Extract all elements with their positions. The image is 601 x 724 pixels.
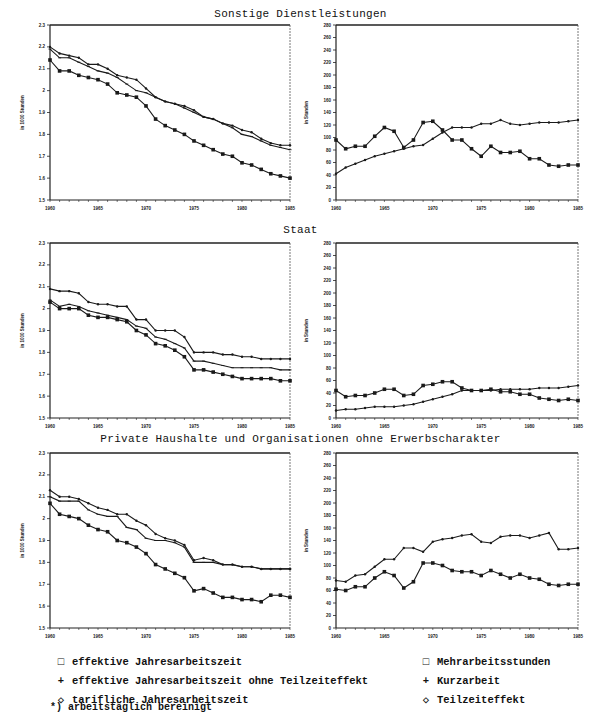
svg-text:200: 200 — [323, 501, 331, 506]
svg-text:140: 140 — [323, 110, 331, 115]
series-line — [336, 563, 578, 591]
svg-text:80: 80 — [326, 366, 332, 371]
svg-text:1965: 1965 — [379, 634, 390, 639]
svg-text:1.9: 1.9 — [39, 328, 46, 333]
svg-text:120: 120 — [323, 123, 331, 128]
svg-text:1970: 1970 — [141, 206, 152, 211]
series-line — [336, 382, 578, 401]
svg-text:in 1000 Stunden: in 1000 Stunden — [20, 313, 25, 348]
svg-text:240: 240 — [323, 48, 331, 53]
svg-text:1960: 1960 — [331, 634, 342, 639]
svg-text:1985: 1985 — [285, 634, 296, 639]
svg-text:1975: 1975 — [189, 634, 200, 639]
svg-text:1.7: 1.7 — [39, 372, 46, 377]
svg-text:1980: 1980 — [237, 206, 248, 211]
svg-text:2: 2 — [42, 306, 45, 311]
svg-text:220: 220 — [323, 488, 331, 493]
svg-text:200: 200 — [323, 291, 331, 296]
svg-text:160: 160 — [323, 526, 331, 531]
svg-text:280: 280 — [323, 241, 331, 246]
svg-text:1.6: 1.6 — [39, 394, 46, 399]
svg-text:1970: 1970 — [141, 634, 152, 639]
svg-text:1985: 1985 — [573, 424, 584, 429]
legend-item: ◇Teilzeiteffekt — [420, 690, 550, 709]
svg-text:200: 200 — [323, 73, 331, 78]
svg-text:1965: 1965 — [93, 424, 104, 429]
svg-text:1970: 1970 — [141, 424, 152, 429]
svg-text:1970: 1970 — [428, 206, 439, 211]
svg-text:1985: 1985 — [573, 634, 584, 639]
series-line — [336, 533, 578, 582]
line-chart-right: 0204060801001201401601802002202402602801… — [300, 240, 590, 440]
legend-label: Mehrarbeitsstunden — [437, 656, 550, 668]
svg-text:40: 40 — [326, 391, 332, 396]
svg-text:1965: 1965 — [379, 206, 390, 211]
svg-text:1980: 1980 — [237, 424, 248, 429]
svg-text:1980: 1980 — [525, 424, 536, 429]
svg-text:260: 260 — [323, 35, 331, 40]
square-marker-icon: □ — [55, 656, 67, 668]
svg-text:2.3: 2.3 — [39, 241, 46, 246]
svg-text:60: 60 — [326, 588, 332, 593]
series-line — [50, 49, 290, 150]
svg-text:0: 0 — [328, 198, 331, 203]
svg-text:1960: 1960 — [331, 206, 342, 211]
line-chart-left: 1.51.61.71.81.922.12.22.3196019651970197… — [18, 22, 308, 222]
svg-text:1.8: 1.8 — [39, 560, 46, 565]
svg-text:1.9: 1.9 — [39, 538, 46, 543]
svg-text:180: 180 — [323, 303, 331, 308]
legend-label: effektive Jahresarbeitszeit ohne Teilzei… — [72, 675, 368, 687]
square-marker-icon: □ — [420, 656, 432, 668]
svg-text:2.2: 2.2 — [39, 44, 46, 49]
series-line — [336, 120, 578, 174]
svg-text:20: 20 — [326, 613, 332, 618]
svg-text:2: 2 — [42, 88, 45, 93]
svg-text:1960: 1960 — [45, 634, 56, 639]
legend-item: □Mehrarbeitsstunden — [420, 652, 550, 671]
svg-text:1975: 1975 — [189, 424, 200, 429]
svg-text:1975: 1975 — [189, 206, 200, 211]
svg-text:1.9: 1.9 — [39, 110, 46, 115]
svg-text:160: 160 — [323, 98, 331, 103]
series-line — [50, 60, 290, 178]
svg-text:180: 180 — [323, 85, 331, 90]
svg-text:60: 60 — [326, 160, 332, 165]
svg-text:in Stunden: in Stunden — [304, 101, 309, 124]
svg-text:1.5: 1.5 — [39, 626, 46, 631]
svg-text:100: 100 — [323, 353, 331, 358]
svg-text:280: 280 — [323, 23, 331, 28]
svg-text:1.5: 1.5 — [39, 416, 46, 421]
svg-text:1.8: 1.8 — [39, 350, 46, 355]
svg-text:80: 80 — [326, 576, 332, 581]
svg-text:240: 240 — [323, 476, 331, 481]
diamond-marker-icon: ◇ — [420, 693, 432, 706]
svg-text:1980: 1980 — [525, 634, 536, 639]
panel-title: Staat — [0, 224, 601, 236]
svg-text:1960: 1960 — [331, 424, 342, 429]
svg-text:2.2: 2.2 — [39, 472, 46, 477]
svg-text:2.1: 2.1 — [39, 494, 46, 499]
svg-text:in Stunden: in Stunden — [304, 319, 309, 342]
line-chart-left: 1.51.61.71.81.922.12.22.3196019651970197… — [18, 450, 308, 650]
panel-title: Sonstige Dienstleistungen — [0, 8, 601, 20]
svg-text:2.2: 2.2 — [39, 262, 46, 267]
legend-label: effektive Jahresarbeitszeit — [72, 656, 242, 668]
legend-label: Kurzarbeit — [437, 675, 500, 687]
svg-text:40: 40 — [326, 173, 332, 178]
series-line — [50, 497, 290, 569]
svg-text:260: 260 — [323, 463, 331, 468]
line-chart-right: 0204060801001201401601802002202402602801… — [300, 22, 590, 222]
plus-marker-icon: + — [55, 675, 67, 687]
series-line — [50, 490, 290, 569]
svg-text:1985: 1985 — [285, 424, 296, 429]
svg-text:1.8: 1.8 — [39, 132, 46, 137]
svg-text:1960: 1960 — [45, 206, 56, 211]
legend-left: □effektive Jahresarbeitszeit +effektive … — [55, 652, 368, 709]
series-line — [50, 503, 290, 601]
svg-text:0: 0 — [328, 416, 331, 421]
svg-text:1.5: 1.5 — [39, 198, 46, 203]
svg-text:1975: 1975 — [476, 424, 487, 429]
svg-text:220: 220 — [323, 278, 331, 283]
svg-text:2: 2 — [42, 516, 45, 521]
legend-label: Teilzeiteffekt — [437, 694, 525, 706]
